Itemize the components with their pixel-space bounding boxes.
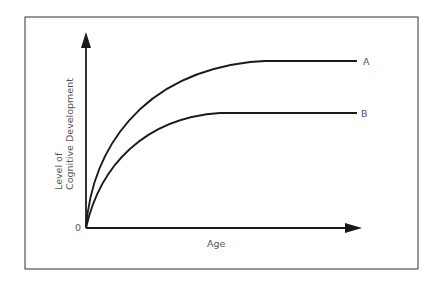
series-b-curve [86, 113, 357, 228]
x-axis-label: Age [207, 238, 226, 249]
y-axis-arrow-icon [81, 32, 91, 48]
figure-frame [25, 17, 418, 269]
chart: A B 0 Age Level of Cognitive Development [0, 0, 441, 287]
y-axis-label-line1: Level of [53, 152, 64, 190]
origin-label: 0 [75, 222, 81, 233]
y-axis-label-line2: Cognitive Development [64, 78, 75, 190]
series-a-curve [86, 61, 357, 228]
x-axis-arrow-icon [345, 223, 362, 233]
series-a-label: A [363, 56, 370, 67]
series-b-label: B [361, 108, 368, 119]
